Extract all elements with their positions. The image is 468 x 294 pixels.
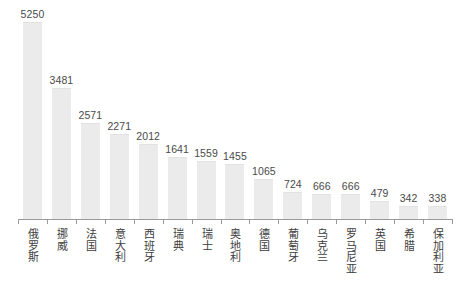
category-label: 葡萄牙 [278, 228, 307, 263]
bar-column[interactable]: 724 [278, 8, 307, 219]
bar-column[interactable]: 2012 [134, 8, 163, 219]
category-label-text: 俄罗斯 [26, 228, 39, 263]
bar-value-label: 1559 [194, 147, 218, 159]
bar-rect[interactable] [81, 123, 100, 219]
bar-column[interactable]: 2571 [76, 8, 105, 219]
category-label-text: 英国 [373, 228, 386, 251]
category-label: 乌克兰 [307, 228, 336, 263]
axis-tick [452, 219, 453, 224]
category-label-text: 瑞士 [200, 228, 213, 251]
bar-column[interactable]: 338 [423, 8, 452, 219]
category-label: 德国 [249, 228, 278, 251]
bar-value-label: 5250 [21, 8, 45, 20]
bar-rect[interactable] [52, 88, 71, 219]
bar-rect[interactable] [23, 22, 42, 219]
category-label-text: 德国 [257, 228, 270, 251]
bar-rect[interactable] [399, 206, 418, 219]
bar-value-label: 2271 [107, 120, 131, 132]
category-label: 保加利亚 [423, 228, 452, 274]
bar-column[interactable]: 479 [365, 8, 394, 219]
bar-column[interactable]: 5250 [18, 8, 47, 219]
category-label: 罗马尼亚 [336, 228, 365, 274]
axis-tick [134, 219, 135, 224]
bar-column[interactable]: 666 [336, 8, 365, 219]
axis-tick [423, 219, 424, 224]
bar-rect[interactable] [168, 157, 187, 219]
axis-tick [18, 219, 19, 224]
category-label-text: 乌克兰 [315, 228, 328, 263]
category-label-text: 意大利 [113, 228, 126, 263]
bar-column[interactable]: 1641 [163, 8, 192, 219]
axis-tick [192, 219, 193, 224]
category-label-text: 瑞典 [171, 228, 184, 251]
category-label: 奥地利 [221, 228, 250, 263]
bar-value-label: 3481 [50, 74, 74, 86]
bar-value-label: 2571 [78, 109, 102, 121]
category-label-text: 法国 [84, 228, 97, 251]
category-label: 瑞典 [163, 228, 192, 251]
category-label: 英国 [365, 228, 394, 251]
category-label-text: 西班牙 [142, 228, 155, 263]
bar-value-label: 338 [429, 192, 447, 204]
category-label: 瑞士 [192, 228, 221, 251]
bar-value-label: 1065 [252, 165, 276, 177]
category-label: 意大利 [105, 228, 134, 263]
category-label: 希腊 [394, 228, 423, 251]
bar-value-label: 1455 [223, 150, 247, 162]
axis-tick [249, 219, 250, 224]
bar-column[interactable]: 1559 [192, 8, 221, 219]
category-label: 西班牙 [134, 228, 163, 263]
bar-value-label: 724 [284, 178, 302, 190]
category-label-text: 挪威 [55, 228, 68, 251]
bar-column[interactable]: 1065 [249, 8, 278, 219]
axis-tick [105, 219, 106, 224]
bar-value-label: 479 [371, 187, 389, 199]
category-label-text: 奥地利 [228, 228, 241, 263]
axis-tick [336, 219, 337, 224]
bar-value-label: 666 [342, 180, 360, 192]
bar-column[interactable]: 666 [307, 8, 336, 219]
bar-value-label: 1641 [165, 143, 189, 155]
bar-value-label: 342 [400, 192, 418, 204]
axis-tick [221, 219, 222, 224]
bar-rect[interactable] [139, 144, 158, 219]
plot-area: 5250348125712271201216411559145510657246… [18, 8, 452, 219]
category-label-text: 保加利亚 [431, 228, 444, 274]
bar-rect[interactable] [283, 192, 302, 219]
category-label: 挪威 [47, 228, 76, 251]
bar-column[interactable]: 2271 [105, 8, 134, 219]
bar-rect[interactable] [110, 134, 129, 219]
axis-tick [307, 219, 308, 224]
bar-value-label: 2012 [136, 130, 160, 142]
category-label-text: 葡萄牙 [286, 228, 299, 263]
category-label-text: 罗马尼亚 [344, 228, 357, 274]
category-label-text: 希腊 [402, 228, 415, 251]
bar-rect[interactable] [428, 206, 447, 219]
bar-rect[interactable] [341, 194, 360, 219]
bar-column[interactable]: 1455 [221, 8, 250, 219]
axis-tick [47, 219, 48, 224]
bar-rect[interactable] [197, 161, 216, 219]
x-axis-line [18, 219, 452, 220]
category-label: 俄罗斯 [18, 228, 47, 263]
axis-tick [278, 219, 279, 224]
axis-tick [394, 219, 395, 224]
bar-value-label: 666 [313, 180, 331, 192]
axis-tick [163, 219, 164, 224]
axis-tick [365, 219, 366, 224]
bar-rect[interactable] [254, 179, 273, 219]
bar-rect[interactable] [312, 194, 331, 219]
category-label: 法国 [76, 228, 105, 251]
axis-tick [76, 219, 77, 224]
bar-rect[interactable] [225, 164, 244, 219]
bar-column[interactable]: 342 [394, 8, 423, 219]
bar-rect[interactable] [370, 201, 389, 219]
x-axis-labels: 俄罗斯挪威法国意大利西班牙瑞典瑞士奥地利德国葡萄牙乌克兰罗马尼亚英国希腊保加利亚 [18, 228, 452, 294]
bar-column[interactable]: 3481 [47, 8, 76, 219]
bar-chart: 5250348125712271201216411559145510657246… [0, 0, 468, 294]
